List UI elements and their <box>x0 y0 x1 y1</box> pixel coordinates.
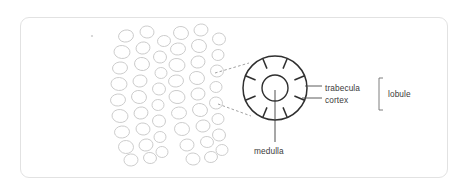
lobule-bracket <box>379 78 383 110</box>
label-trabecula: trabecula <box>325 83 360 93</box>
trabecula-tick <box>263 58 267 68</box>
lobule-blob <box>153 50 168 64</box>
lobule-blob <box>118 140 134 154</box>
lobule-blob <box>110 93 126 107</box>
trabecula-tick <box>283 107 287 117</box>
lobule-blob <box>209 96 223 109</box>
lobule-blob <box>112 61 129 75</box>
lobule-blob <box>191 102 208 118</box>
lobule-blob <box>168 89 186 104</box>
lobule-blob <box>152 82 167 96</box>
trabecula-tick <box>245 76 255 80</box>
lobule-blob <box>179 138 194 151</box>
label-medulla: medulla <box>254 146 284 156</box>
lobule-blob <box>188 70 205 85</box>
lobule-blob <box>155 67 168 79</box>
trabecula-tick <box>294 76 304 80</box>
lobule-blob <box>190 87 206 101</box>
lobule-blob <box>185 152 200 166</box>
lobule-blob <box>170 42 186 56</box>
lobule-blob <box>139 25 155 39</box>
lobule-blob <box>190 38 207 54</box>
lobule-blob <box>110 77 127 91</box>
lobule-blob <box>211 113 224 126</box>
lobule-blob <box>152 114 167 128</box>
lobule-blob <box>143 152 158 165</box>
lobule-blob <box>111 109 128 124</box>
lobule-blob <box>193 23 209 37</box>
magnification-line <box>218 104 251 116</box>
lobule-blob <box>174 122 190 136</box>
label-lobule: lobule <box>388 89 411 99</box>
lobule-blob <box>113 45 130 60</box>
lobule-blob <box>190 55 206 70</box>
leader-lines <box>275 86 322 142</box>
lobule-blob <box>157 35 171 47</box>
trabecula-tick <box>283 58 287 68</box>
lobule-blob <box>114 125 130 139</box>
lobule-blob <box>216 144 229 156</box>
lobule-blob <box>212 32 226 45</box>
lobule-blob <box>124 153 139 166</box>
lobule-blob <box>133 56 150 72</box>
lobule-blob <box>138 138 154 152</box>
lobule-blob <box>195 119 211 133</box>
lobule-blob <box>172 25 189 40</box>
lobule-blob <box>212 128 227 142</box>
lobule-blob <box>155 146 168 158</box>
lobule-blob <box>168 74 184 88</box>
lobule-blob <box>133 106 149 121</box>
lobule-blob <box>135 122 151 136</box>
figure-container: trabecula cortex lobule medulla <box>0 0 470 196</box>
lobule-blob <box>168 57 186 72</box>
lobule-blob <box>200 136 214 149</box>
trabecula-tick <box>263 107 267 117</box>
lobule-blob <box>209 81 222 93</box>
lobule-blob <box>171 106 187 119</box>
lobule-blob <box>117 29 134 44</box>
lobule-blob <box>135 40 151 55</box>
artifact-speck <box>91 35 93 37</box>
trabecula-tick <box>245 96 255 100</box>
bracket-path <box>379 78 383 110</box>
lobule-cluster <box>110 23 229 167</box>
lobule-blob <box>211 49 225 62</box>
label-cortex: cortex <box>325 95 348 105</box>
lobule-blob <box>132 74 148 88</box>
lobule-blob <box>152 99 165 111</box>
lobule-blob <box>130 89 147 105</box>
lobule-blob <box>153 131 166 144</box>
